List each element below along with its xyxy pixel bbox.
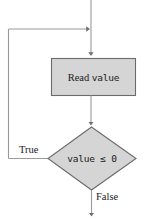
decision-node-value-check — [48, 127, 136, 190]
flowchart-diagram: Read value value ≤ 0 True False — [0, 0, 149, 219]
true-branch-label: True — [19, 144, 38, 155]
process-node-read-value — [52, 59, 136, 96]
flowchart-canvas — [0, 0, 149, 219]
false-branch-label: False — [96, 191, 118, 202]
